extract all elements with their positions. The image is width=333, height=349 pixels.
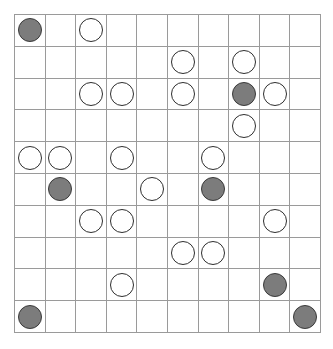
- board-cell[interactable]: [46, 142, 77, 174]
- board-cell[interactable]: [76, 238, 107, 270]
- white-stone[interactable]: [79, 18, 103, 42]
- board-cell[interactable]: [107, 15, 138, 47]
- board-cell[interactable]: [168, 269, 199, 301]
- white-stone[interactable]: [232, 50, 256, 74]
- board-cell[interactable]: [15, 15, 46, 47]
- board-cell[interactable]: [229, 301, 260, 333]
- board-cell[interactable]: [107, 269, 138, 301]
- white-stone[interactable]: [110, 82, 134, 106]
- board-cell[interactable]: [260, 142, 291, 174]
- white-stone[interactable]: [232, 114, 256, 138]
- board-cell[interactable]: [229, 47, 260, 79]
- gray-stone[interactable]: [201, 177, 225, 201]
- board-cell[interactable]: [199, 301, 230, 333]
- board-cell[interactable]: [76, 79, 107, 111]
- board-cell[interactable]: [260, 269, 291, 301]
- white-stone[interactable]: [18, 146, 42, 170]
- board-cell[interactable]: [76, 47, 107, 79]
- board-cell[interactable]: [229, 269, 260, 301]
- board-cell[interactable]: [107, 79, 138, 111]
- white-stone[interactable]: [201, 146, 225, 170]
- board-cell[interactable]: [137, 79, 168, 111]
- board-cell[interactable]: [260, 47, 291, 79]
- board-cell[interactable]: [107, 301, 138, 333]
- white-stone[interactable]: [48, 146, 72, 170]
- board-cell[interactable]: [107, 47, 138, 79]
- board-cell[interactable]: [76, 269, 107, 301]
- board-cell[interactable]: [168, 15, 199, 47]
- board-cell[interactable]: [260, 15, 291, 47]
- board-cell[interactable]: [46, 269, 77, 301]
- white-stone[interactable]: [110, 146, 134, 170]
- board-cell[interactable]: [168, 110, 199, 142]
- board-cell[interactable]: [229, 206, 260, 238]
- board-cell[interactable]: [107, 142, 138, 174]
- board-cell[interactable]: [168, 206, 199, 238]
- board-cell[interactable]: [199, 110, 230, 142]
- board-cell[interactable]: [15, 110, 46, 142]
- board-cell[interactable]: [199, 79, 230, 111]
- board-cell[interactable]: [46, 110, 77, 142]
- board-cell[interactable]: [290, 206, 321, 238]
- white-stone[interactable]: [263, 209, 287, 233]
- board-cell[interactable]: [76, 110, 107, 142]
- board-cell[interactable]: [290, 174, 321, 206]
- gray-stone[interactable]: [18, 18, 42, 42]
- board-cell[interactable]: [76, 206, 107, 238]
- board-cell[interactable]: [290, 79, 321, 111]
- board-cell[interactable]: [15, 79, 46, 111]
- board-cell[interactable]: [290, 15, 321, 47]
- board-cell[interactable]: [46, 238, 77, 270]
- white-stone[interactable]: [171, 50, 195, 74]
- board-cell[interactable]: [260, 301, 291, 333]
- board-cell[interactable]: [46, 79, 77, 111]
- board-cell[interactable]: [290, 47, 321, 79]
- white-stone[interactable]: [263, 82, 287, 106]
- board-cell[interactable]: [15, 47, 46, 79]
- board-cell[interactable]: [168, 47, 199, 79]
- board-cell[interactable]: [260, 238, 291, 270]
- white-stone[interactable]: [79, 209, 103, 233]
- board-cell[interactable]: [290, 301, 321, 333]
- board-cell[interactable]: [15, 269, 46, 301]
- board-cell[interactable]: [15, 206, 46, 238]
- board-cell[interactable]: [290, 110, 321, 142]
- board-cell[interactable]: [46, 301, 77, 333]
- board-cell[interactable]: [199, 269, 230, 301]
- board-cell[interactable]: [137, 142, 168, 174]
- board-cell[interactable]: [168, 174, 199, 206]
- board-cell[interactable]: [199, 47, 230, 79]
- board-cell[interactable]: [137, 238, 168, 270]
- white-stone[interactable]: [110, 209, 134, 233]
- white-stone[interactable]: [110, 273, 134, 297]
- board-cell[interactable]: [46, 174, 77, 206]
- board-cell[interactable]: [76, 174, 107, 206]
- board-cell[interactable]: [260, 174, 291, 206]
- board-cell[interactable]: [199, 174, 230, 206]
- board-cell[interactable]: [168, 142, 199, 174]
- board-cell[interactable]: [137, 206, 168, 238]
- board-cell[interactable]: [290, 142, 321, 174]
- board-cell[interactable]: [199, 238, 230, 270]
- white-stone[interactable]: [201, 241, 225, 265]
- board-cell[interactable]: [168, 79, 199, 111]
- board-cell[interactable]: [229, 174, 260, 206]
- board-cell[interactable]: [260, 79, 291, 111]
- board-cell[interactable]: [199, 15, 230, 47]
- board-cell[interactable]: [46, 47, 77, 79]
- board-cell[interactable]: [229, 79, 260, 111]
- gray-stone[interactable]: [18, 305, 42, 329]
- gray-stone[interactable]: [293, 305, 317, 329]
- board-cell[interactable]: [168, 301, 199, 333]
- board-cell[interactable]: [15, 238, 46, 270]
- board-cell[interactable]: [229, 15, 260, 47]
- board-cell[interactable]: [229, 110, 260, 142]
- board-cell[interactable]: [137, 174, 168, 206]
- board-cell[interactable]: [107, 174, 138, 206]
- board-cell[interactable]: [229, 142, 260, 174]
- board-cell[interactable]: [199, 206, 230, 238]
- board-cell[interactable]: [107, 238, 138, 270]
- board-cell[interactable]: [137, 47, 168, 79]
- board-cell[interactable]: [260, 110, 291, 142]
- board-cell[interactable]: [76, 15, 107, 47]
